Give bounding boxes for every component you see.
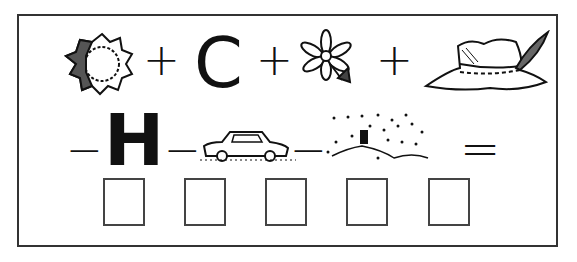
rebus-letter-h: H xyxy=(104,104,164,176)
car-icon xyxy=(200,128,296,164)
answer-box-4[interactable] xyxy=(346,178,388,226)
flower-icon xyxy=(298,28,360,88)
answer-box-3[interactable] xyxy=(265,178,307,226)
minus-operator: − xyxy=(66,128,103,172)
rebus-letter-c: C xyxy=(194,28,243,98)
minus-operator: − xyxy=(164,128,201,172)
answer-box-2[interactable] xyxy=(184,178,226,226)
sun-icon xyxy=(62,28,140,100)
plus-operator: + xyxy=(376,38,413,82)
hat-icon xyxy=(420,30,560,96)
equals-operator: = xyxy=(460,124,500,172)
plus-operator: + xyxy=(256,38,293,82)
answer-box-1[interactable] xyxy=(103,178,145,226)
answer-box-5[interactable] xyxy=(428,178,470,226)
plus-operator: + xyxy=(143,38,180,82)
snow-icon xyxy=(322,112,434,164)
